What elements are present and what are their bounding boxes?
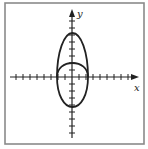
x-axis-label: x <box>134 82 140 93</box>
x-axis <box>10 74 139 80</box>
coordinate-graph: x y <box>0 0 148 149</box>
y-axis <box>69 9 75 138</box>
x-axis-arrow-icon <box>131 74 139 80</box>
y-axis-label: y <box>76 8 83 19</box>
y-axis-arrow-icon <box>69 9 75 17</box>
frame-border <box>5 3 144 144</box>
